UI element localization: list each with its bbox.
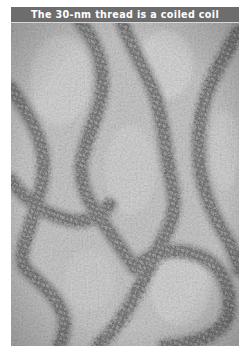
figure-title: The 30-nm thread is a coiled coil [11,7,239,23]
micrograph-figure: The 30-nm thread is a coiled coil [11,7,239,346]
chromatin-micrograph-image [11,23,239,346]
